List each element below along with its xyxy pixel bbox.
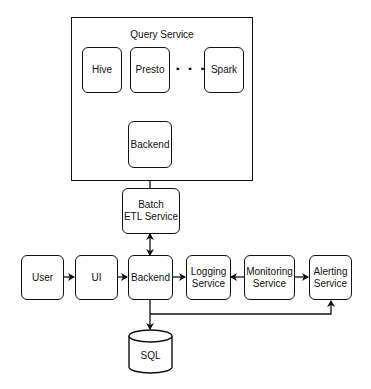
- alerting-label-line2: Service: [314, 278, 347, 290]
- logging-service-node[interactable]: Logging Service: [186, 255, 231, 300]
- ui-node[interactable]: UI: [75, 255, 118, 300]
- architecture-diagram: Query Service Hive Presto ▪ ▪ ▪ Spark Ba…: [0, 0, 371, 389]
- query-backend-node[interactable]: Backend: [128, 121, 172, 168]
- user-label: User: [32, 272, 53, 284]
- user-node[interactable]: User: [21, 255, 64, 300]
- backend-label: Backend: [131, 272, 170, 284]
- batch-etl-label-line2: ETL Service: [124, 211, 178, 223]
- query-backend-label: Backend: [131, 139, 170, 151]
- spark-label: Spark: [211, 64, 237, 76]
- logging-label-line1: Logging: [191, 266, 227, 278]
- monitoring-label-line2: Service: [253, 278, 286, 290]
- hive-node[interactable]: Hive: [82, 47, 122, 93]
- alerting-service-node[interactable]: Alerting Service: [309, 255, 352, 300]
- ellipsis-icon: ▪ ▪ ▪: [176, 63, 207, 74]
- ui-label: UI: [92, 272, 102, 284]
- alerting-label-line1: Alerting: [314, 266, 348, 278]
- logging-label-line2: Service: [192, 278, 225, 290]
- batch-etl-label-line1: Batch: [138, 199, 164, 211]
- spark-node[interactable]: Spark: [204, 47, 244, 93]
- backend-node[interactable]: Backend: [128, 255, 173, 300]
- presto-label: Presto: [136, 64, 165, 76]
- presto-node[interactable]: Presto: [130, 47, 170, 93]
- query-service-title: Query Service: [72, 29, 252, 40]
- monitoring-label-line1: Monitoring: [246, 266, 293, 278]
- sql-label: SQL: [129, 350, 172, 361]
- hive-label: Hive: [92, 64, 112, 76]
- monitoring-service-node[interactable]: Monitoring Service: [244, 255, 295, 300]
- batch-etl-service-node[interactable]: Batch ETL Service: [122, 188, 180, 234]
